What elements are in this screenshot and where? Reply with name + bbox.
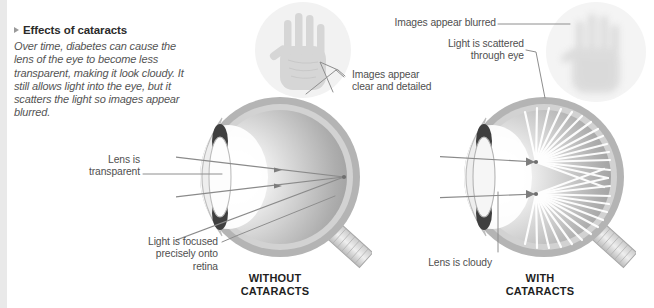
scatter-point-lower (534, 192, 538, 196)
caption-with-line2: CATARACTS (506, 285, 575, 297)
lens-cloudy (473, 137, 495, 217)
left-accent-rule (0, 0, 7, 308)
intro-block: Effects of cataracts Over time, diabetes… (14, 23, 196, 120)
label-images-blurred: Images appear blurred (368, 17, 496, 29)
caption-without-line1: WITHOUT (249, 272, 302, 284)
scatter-point-upper (534, 160, 538, 164)
focal-point (342, 175, 346, 179)
label-lens-transparent: Lens is transparent (40, 154, 140, 179)
caption-with-line1: WITH (526, 272, 555, 284)
label-images-clear: Images appear clear and detailed (352, 69, 472, 94)
label-light-focused: Light is focused precisely onto retina (80, 236, 218, 273)
triangle-right-icon (14, 27, 19, 33)
caption-with-cataracts: WITHCATARACTS (470, 272, 610, 298)
caption-without-cataracts: WITHOUTCATARACTS (205, 272, 345, 298)
label-lens-cloudy: Lens is cloudy (398, 257, 492, 269)
label-light-scattered: Light is scattered through eye (396, 38, 524, 63)
caption-without-line2: CATARACTS (241, 285, 310, 297)
eye-diagram-with-cataracts (440, 84, 636, 270)
figure-body-text: Over time, diabetes can cause the lens o… (14, 40, 196, 120)
figure-heading-text: Effects of cataracts (23, 24, 127, 36)
figure-canvas: Effects of cataracts Over time, diabetes… (0, 0, 654, 308)
figure-heading: Effects of cataracts (14, 23, 196, 37)
lens-transparent (209, 137, 231, 217)
